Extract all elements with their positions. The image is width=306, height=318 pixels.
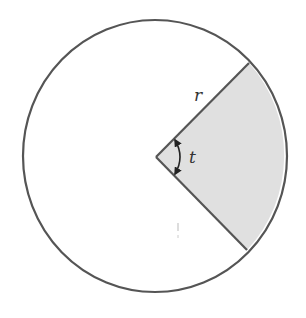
- angle-label: t: [189, 147, 196, 167]
- radius-label: r: [194, 85, 203, 105]
- sector-diagram: r t: [0, 0, 306, 318]
